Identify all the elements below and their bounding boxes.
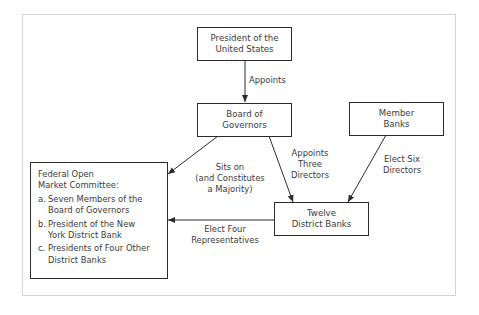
edge-label-line: Three <box>285 159 335 170</box>
fomc-item-a: a. Seven Members of theBoard of Governor… <box>38 194 167 217</box>
edge-label-sits-on: Sits on (and Constitutes a Majority) <box>190 162 270 196</box>
edge-label-line: Directors <box>285 170 335 181</box>
edge-label-line: (and Constitutes <box>190 173 270 184</box>
fomc-item-marker: b. <box>38 219 48 242</box>
node-twelve-district-banks: TwelveDistrict Banks <box>274 202 369 236</box>
node-board-line2: Governors <box>222 120 266 132</box>
edge-label-elect-four-representatives: Elect Four Representatives <box>185 224 265 246</box>
edge-label-appoints: Appoints <box>249 75 286 86</box>
fomc-item-marker: c. <box>38 243 48 266</box>
fomc-item-text: Board of Governors <box>48 205 143 216</box>
node-president-line2: United States <box>211 44 279 56</box>
node-president: President of theUnited States <box>197 27 292 61</box>
node-member-line2: Banks <box>379 119 414 131</box>
edge-label-elect-six-directors: Elect Six Directors <box>377 154 427 176</box>
node-fomc: Federal Open Market Committee: a. Seven … <box>30 162 168 279</box>
fomc-item-c: c. Presidents of Four OtherDistrict Bank… <box>38 243 167 266</box>
fomc-item-text: Seven Members of the <box>48 194 143 205</box>
node-board-line1: Board of <box>222 109 266 121</box>
node-member-line1: Member <box>379 108 414 120</box>
node-member-banks: MemberBanks <box>349 102 444 136</box>
fomc-item-text: President of the New <box>48 219 135 230</box>
node-district-line2: District Banks <box>292 219 352 231</box>
node-board-of-governors: Board ofGovernors <box>197 103 292 137</box>
edge-label-line: Elect Four <box>185 224 265 235</box>
fomc-item-text: York District Bank <box>48 230 135 241</box>
fomc-item-b: b. President of the NewYork District Ban… <box>38 219 167 242</box>
node-district-line1: Twelve <box>292 208 352 220</box>
node-president-line1: President of the <box>211 33 279 45</box>
edge-label-line: Appoints <box>285 148 335 159</box>
fomc-item-marker: a. <box>38 194 48 217</box>
edge-label-line: Appoints <box>249 75 286 86</box>
fomc-item-text: District Banks <box>48 255 150 266</box>
edge-label-appoints-three-directors: Appoints Three Directors <box>285 148 335 182</box>
edge-label-line: Sits on <box>190 162 270 173</box>
edge-label-line: a Majority) <box>190 184 270 195</box>
edge-label-line: Representatives <box>185 235 265 246</box>
edge-label-line: Elect Six <box>377 154 427 165</box>
edge-label-line: Directors <box>377 165 427 176</box>
fomc-item-text: Presidents of Four Other <box>48 243 150 254</box>
fomc-title1: Federal Open <box>38 169 167 180</box>
fomc-title2: Market Committee: <box>38 180 167 191</box>
